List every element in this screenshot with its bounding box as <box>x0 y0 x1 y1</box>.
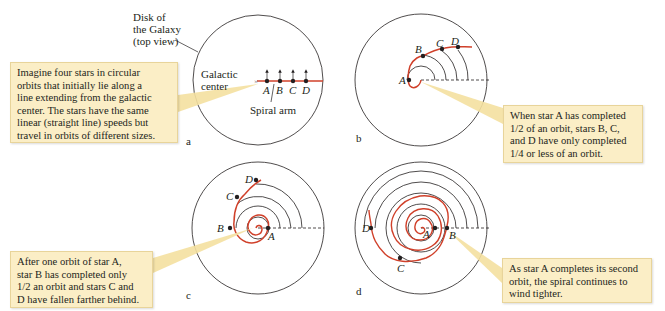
star-label-a-b: A <box>399 74 406 86</box>
disk-label: Disk of the Galaxy (top view) <box>133 11 181 47</box>
svg-text:×: × <box>254 78 258 86</box>
star-label-d: D <box>302 84 310 96</box>
panel-label-d: d <box>356 285 362 297</box>
callout-d: As star A completes its second orbit, th… <box>502 258 652 303</box>
star-label-c: C <box>289 84 296 96</box>
galactic-center-label: Galactic center <box>201 68 238 92</box>
star-label-d-b: D <box>451 35 459 47</box>
spiral-arm-leader <box>271 84 274 102</box>
panel-label-c: c <box>186 289 191 301</box>
star-label-a-d: A <box>423 228 430 240</box>
star-label-c-b: C <box>436 37 443 49</box>
star-label-a-c: A <box>268 230 275 242</box>
panel-b-drawing <box>355 14 503 146</box>
spiral-arm-label: Spiral arm <box>250 104 296 116</box>
callout-a: Imagine four stars in circular orbits th… <box>10 62 178 143</box>
star-label-c-c: C <box>226 190 233 202</box>
callout-pointer-c <box>153 228 253 273</box>
panel-label-a: a <box>186 135 191 147</box>
star-label-a: A <box>263 84 270 96</box>
star-label-c-d: C <box>397 262 404 274</box>
star-label-b-d: B <box>449 229 456 241</box>
panel-a-drawing: × <box>175 15 323 145</box>
callout-pointer-b <box>421 82 503 124</box>
callout-b: When star A has completed 1/2 of an orbi… <box>503 105 643 163</box>
star-label-b: B <box>276 84 283 96</box>
callout-c: After one orbit of star A, star B has co… <box>10 251 153 308</box>
star-label-d-d: D <box>362 222 370 234</box>
star-label-b-b: B <box>415 43 422 55</box>
panel-c-drawing <box>153 162 324 294</box>
panel-label-b: b <box>356 132 362 144</box>
star-label-d-c: D <box>245 173 253 185</box>
star-label-b-c: B <box>217 222 224 234</box>
